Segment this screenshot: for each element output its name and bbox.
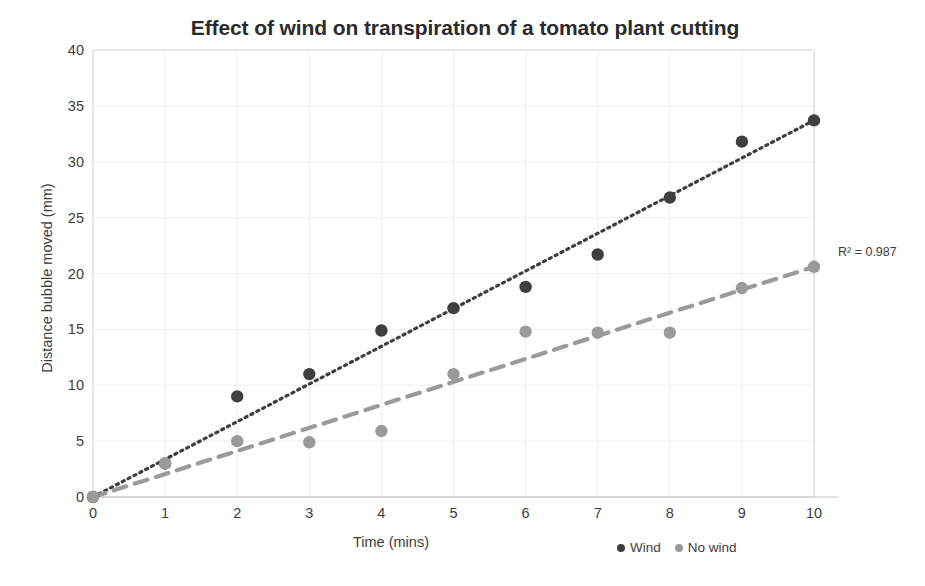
data-point[interactable] bbox=[375, 425, 387, 437]
x-tick-label: 10 bbox=[794, 505, 834, 521]
x-tick-label: 8 bbox=[650, 505, 690, 521]
data-point[interactable] bbox=[664, 327, 676, 339]
data-point[interactable] bbox=[447, 302, 459, 314]
legend-item-wind[interactable]: Wind bbox=[617, 540, 661, 555]
x-tick-label: 4 bbox=[361, 505, 401, 521]
data-point[interactable] bbox=[231, 435, 243, 447]
data-point[interactable] bbox=[447, 368, 459, 380]
y-tick-label: 0 bbox=[42, 489, 84, 505]
legend-label-no-wind: No wind bbox=[688, 540, 737, 555]
y-tick-label: 5 bbox=[42, 433, 84, 449]
plot-area bbox=[0, 0, 925, 586]
x-axis-title: Time (mins) bbox=[353, 534, 429, 550]
chart-legend: Wind No wind bbox=[617, 540, 737, 555]
data-point[interactable] bbox=[375, 324, 387, 336]
x-tick-label: 5 bbox=[434, 505, 474, 521]
trendline-no-wind bbox=[93, 265, 820, 497]
y-tick-label: 20 bbox=[42, 266, 84, 282]
data-point[interactable] bbox=[303, 368, 315, 380]
data-point[interactable] bbox=[592, 327, 604, 339]
data-point[interactable] bbox=[231, 390, 243, 402]
x-tick-label: 9 bbox=[722, 505, 762, 521]
data-point[interactable] bbox=[303, 436, 315, 448]
legend-marker-icon bbox=[617, 544, 625, 552]
data-point[interactable] bbox=[87, 491, 99, 503]
legend-label-wind: Wind bbox=[630, 540, 661, 555]
y-tick-label: 15 bbox=[42, 321, 84, 337]
y-tick-label: 25 bbox=[42, 210, 84, 226]
data-point[interactable] bbox=[664, 191, 676, 203]
data-point[interactable] bbox=[736, 135, 748, 147]
x-tick-label: 3 bbox=[289, 505, 329, 521]
data-point[interactable] bbox=[808, 114, 820, 126]
x-tick-label: 6 bbox=[506, 505, 546, 521]
data-point[interactable] bbox=[736, 282, 748, 294]
y-axis-tick-labels: 0510152025303540 bbox=[0, 0, 84, 586]
y-tick-label: 40 bbox=[42, 42, 84, 58]
data-point[interactable] bbox=[159, 457, 171, 469]
data-point[interactable] bbox=[519, 325, 531, 337]
legend-marker-icon bbox=[675, 544, 683, 552]
chart-title: Effect of wind on transpiration of a tom… bbox=[120, 16, 810, 40]
y-tick-label: 10 bbox=[42, 377, 84, 393]
x-tick-label: 2 bbox=[217, 505, 257, 521]
data-point[interactable] bbox=[808, 261, 820, 273]
x-tick-label: 7 bbox=[578, 505, 618, 521]
legend-item-no-wind[interactable]: No wind bbox=[675, 540, 737, 555]
x-tick-label: 0 bbox=[73, 505, 113, 521]
grid-lines bbox=[93, 50, 814, 497]
y-tick-label: 30 bbox=[42, 154, 84, 170]
data-point[interactable] bbox=[519, 281, 531, 293]
y-tick-label: 35 bbox=[42, 98, 84, 114]
data-point[interactable] bbox=[592, 248, 604, 260]
chart-container: Effect of wind on transpiration of a tom… bbox=[0, 0, 925, 586]
x-tick-label: 1 bbox=[145, 505, 185, 521]
r-squared-annotation: R² = 0.987 bbox=[838, 245, 897, 259]
